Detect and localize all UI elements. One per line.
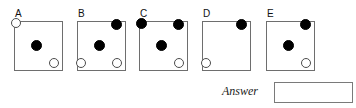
option-box[interactable]	[139, 21, 188, 71]
dot-bottom-right-hollow-icon	[301, 58, 311, 68]
dot-bottom-right-hollow-icon	[49, 58, 59, 68]
dot-top-left-hollow-icon	[11, 18, 21, 28]
dot-bottom-right-hollow-icon	[174, 58, 184, 68]
option-box[interactable]	[266, 21, 315, 71]
dot-top-right-filled-icon	[111, 19, 122, 30]
dot-center-filled-icon	[156, 40, 167, 51]
dot-center-filled-icon	[94, 40, 105, 51]
dot-center-filled-icon	[283, 40, 294, 51]
dot-top-right-filled-icon	[300, 19, 311, 30]
option-label: B	[78, 8, 85, 19]
answer-input[interactable]	[274, 82, 353, 103]
dot-bottom-right-hollow-icon	[112, 58, 122, 68]
option-label: D	[203, 8, 210, 19]
answer-label: Answer	[222, 84, 258, 98]
dot-top-left-filled-icon	[136, 18, 147, 29]
dot-center-filled-icon	[31, 40, 42, 51]
dot-top-right-filled-icon	[173, 19, 184, 30]
multiple-choice-figure: ABCDE Answer	[0, 0, 356, 108]
option-box[interactable]	[77, 21, 126, 71]
dot-top-right-filled-icon	[236, 19, 247, 30]
option-box[interactable]	[14, 21, 63, 71]
answer-row: Answer	[222, 80, 356, 106]
dot-bottom-left-hollow-icon	[76, 58, 86, 68]
option-label: E	[267, 8, 274, 19]
option-box[interactable]	[202, 21, 251, 71]
dot-bottom-left-hollow-icon	[201, 58, 211, 68]
